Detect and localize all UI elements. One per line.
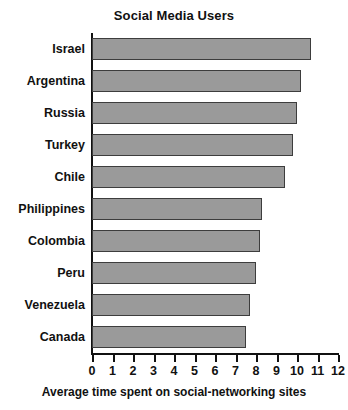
x-axis-tick-labels: 0123456789101112 <box>92 364 338 380</box>
plot-area: IsraelArgentinaRussiaTurkeyChilePhilippi… <box>92 33 338 353</box>
bar-row: Peru <box>92 257 338 289</box>
bar <box>92 38 311 60</box>
x-tick-label: 5 <box>191 364 198 378</box>
x-tick-label: 7 <box>232 364 239 378</box>
category-label: Russia <box>44 102 85 124</box>
bar-row: Colombia <box>92 225 338 257</box>
x-tick-label: 12 <box>331 364 345 378</box>
bar <box>92 294 250 316</box>
x-tick <box>297 355 299 362</box>
x-axis-ticks <box>92 355 338 363</box>
bar-row: Canada <box>92 321 338 353</box>
x-tick <box>195 355 197 362</box>
x-tick <box>154 355 156 362</box>
bar-row: Chile <box>92 161 338 193</box>
category-label: Venezuela <box>25 294 85 316</box>
bar-row: Philippines <box>92 193 338 225</box>
bar <box>92 198 262 220</box>
category-label: Argentina <box>27 70 85 92</box>
bar-rows: IsraelArgentinaRussiaTurkeyChilePhilippi… <box>92 33 338 353</box>
bar-row: Russia <box>92 97 338 129</box>
x-tick-label: 2 <box>130 364 137 378</box>
bar <box>92 326 246 348</box>
category-label: Peru <box>57 262 85 284</box>
category-label: Colombia <box>28 230 85 252</box>
x-tick <box>133 355 135 362</box>
x-tick <box>92 355 94 362</box>
bar <box>92 166 285 188</box>
x-tick <box>113 355 115 362</box>
x-tick <box>338 355 340 362</box>
category-label: Israel <box>52 38 85 60</box>
x-tick-label: 6 <box>212 364 219 378</box>
x-tick-label: 3 <box>150 364 157 378</box>
category-label: Canada <box>40 326 85 348</box>
x-tick-label: 10 <box>290 364 304 378</box>
category-label: Turkey <box>45 134 85 156</box>
bar-row: Argentina <box>92 65 338 97</box>
x-tick <box>174 355 176 362</box>
bar <box>92 70 301 92</box>
x-tick <box>256 355 258 362</box>
bar-row: Israel <box>92 33 338 65</box>
x-tick <box>236 355 238 362</box>
x-tick-label: 9 <box>273 364 280 378</box>
x-tick-label: 11 <box>311 364 324 378</box>
x-axis-title: Average time spent on social-networking … <box>0 385 348 399</box>
x-tick <box>215 355 217 362</box>
category-label: Chile <box>54 166 85 188</box>
chart-title: Social Media Users <box>0 8 348 23</box>
x-tick-label: 1 <box>109 364 116 378</box>
x-tick <box>277 355 279 362</box>
x-tick <box>318 355 320 362</box>
category-label: Philippines <box>18 198 85 220</box>
bar <box>92 134 293 156</box>
x-tick-label: 4 <box>171 364 178 378</box>
bar <box>92 102 297 124</box>
bar-chart: Social Media Users IsraelArgentinaRussia… <box>0 0 348 410</box>
bar <box>92 230 260 252</box>
x-tick-label: 8 <box>253 364 260 378</box>
x-tick-label: 0 <box>89 364 96 378</box>
bar-row: Venezuela <box>92 289 338 321</box>
bar-row: Turkey <box>92 129 338 161</box>
bar <box>92 262 256 284</box>
